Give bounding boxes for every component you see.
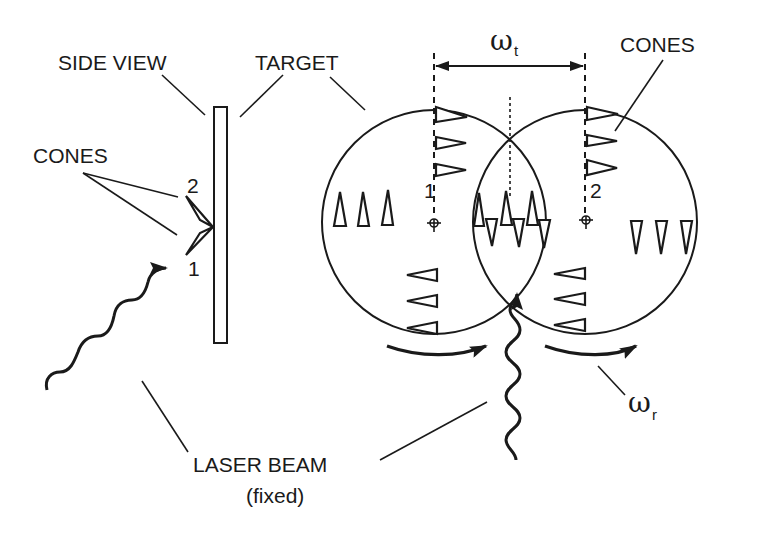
laser-beam-label: LASER BEAM — [193, 453, 327, 476]
target-plate — [214, 107, 227, 343]
side-cone-2-number: 2 — [187, 174, 199, 197]
center-2-number: 2 — [590, 179, 602, 202]
side-cone-1 — [186, 227, 213, 255]
omega-t-subscript: t — [514, 42, 519, 59]
target-leader-side — [240, 75, 283, 117]
cones-circle2-top — [587, 107, 618, 175]
omega-t-symbol: ω — [490, 24, 513, 57]
laser-leader-right — [380, 402, 487, 460]
omega-r-leader — [598, 366, 625, 395]
top-view: ω t 1 2 — [322, 24, 697, 460]
side-view: SIDE VIEW TARGET CONES 2 1 — [33, 51, 365, 390]
cones-label-left: CONES — [33, 144, 108, 167]
side-cone-1-number: 1 — [188, 257, 200, 280]
omega-r-symbol: ω — [628, 386, 651, 419]
center-marker-1 — [427, 219, 441, 232]
cones-overlap — [474, 191, 550, 248]
side-cone-2 — [186, 196, 213, 227]
cones-label-right: CONES — [620, 33, 695, 56]
side-view-leader — [162, 75, 205, 115]
cones-leader-1 — [83, 173, 178, 197]
cones-leader-right — [615, 60, 663, 131]
cones-circle2-right — [631, 221, 692, 254]
laser-beam-label-group: LASER BEAM (fixed) — [142, 381, 487, 507]
rotation-arrow-2 — [545, 346, 636, 355]
center-1-number: 1 — [424, 179, 436, 202]
laser-beam-fixed-label: (fixed) — [246, 484, 304, 507]
cones-circle1-bottom — [407, 269, 437, 334]
side-view-label: SIDE VIEW — [58, 51, 167, 74]
cones-leader-2 — [83, 173, 177, 235]
target-leader-top — [330, 77, 365, 110]
cones-circle1-top — [436, 107, 467, 176]
omega-r-subscript: r — [652, 406, 657, 423]
center-marker-2 — [579, 216, 593, 229]
target-label: TARGET — [255, 51, 339, 74]
laser-leader-left — [142, 381, 188, 452]
rotation-arrow-1 — [387, 346, 486, 355]
laser-beam-side — [46, 268, 166, 390]
cones-circle1-left — [334, 190, 393, 226]
cones-circle2-bottom — [554, 268, 585, 331]
laser-target-diagram: SIDE VIEW TARGET CONES 2 1 ω t — [0, 0, 775, 544]
laser-beam-top — [506, 294, 520, 460]
